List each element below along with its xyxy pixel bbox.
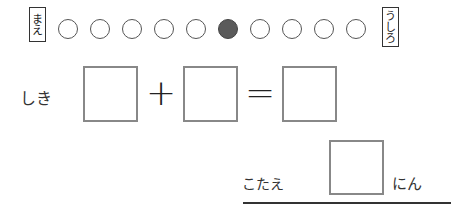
person-circle	[282, 19, 302, 39]
front-label: ま え	[29, 7, 46, 42]
front-label-char: え	[32, 25, 43, 36]
answer-underline	[243, 202, 451, 204]
person-circle	[314, 19, 334, 39]
person-circle	[250, 19, 270, 39]
equation-box-1[interactable]	[83, 66, 138, 122]
back-label: う し ろ	[382, 7, 399, 47]
equals-sign: =	[245, 75, 275, 111]
person-circle	[346, 19, 366, 39]
front-label-char: ま	[32, 14, 43, 25]
back-label-char: ろ	[385, 33, 396, 44]
person-circle-highlighted	[218, 19, 238, 39]
person-circle	[90, 19, 110, 39]
equation-box-2[interactable]	[183, 66, 238, 122]
person-circle	[186, 19, 206, 39]
person-circle	[58, 19, 78, 39]
answer-label: こたえ	[242, 173, 284, 193]
person-circle	[154, 19, 174, 39]
back-label-char: し	[385, 22, 396, 33]
person-circle	[122, 19, 142, 39]
answer-box[interactable]	[329, 140, 384, 195]
plus-sign: +	[146, 75, 176, 111]
equation-label: しき	[20, 85, 52, 109]
equation-box-result[interactable]	[282, 66, 337, 122]
back-label-char: う	[385, 11, 396, 22]
answer-unit: にん	[392, 172, 422, 193]
